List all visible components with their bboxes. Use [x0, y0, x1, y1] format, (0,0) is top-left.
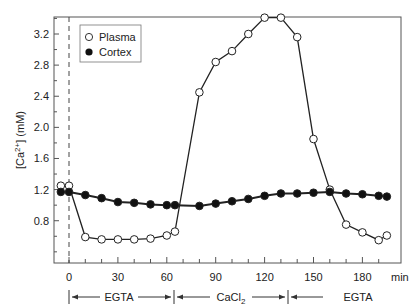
y-tick-label: 2.4: [34, 90, 49, 102]
x-axis: 0306090120150180: [66, 257, 379, 283]
x-tick-label: 0: [66, 271, 72, 283]
cortex-data-point: [310, 189, 318, 197]
x-tick-label: 90: [210, 271, 222, 283]
cortex-data-point: [326, 188, 334, 196]
y-tick-label: 2.8: [34, 59, 49, 71]
x-tick-label: 30: [112, 271, 124, 283]
cortex-data-point: [65, 188, 73, 196]
plasma-data-point: [228, 47, 236, 55]
legend: Plasma Cortex: [80, 25, 141, 62]
plasma-data-point: [130, 236, 138, 244]
y-axis: 0.81.21.62.02.42.83.2: [34, 18, 59, 251]
cortex-data-point: [171, 201, 179, 209]
y-axis-label: [Ca2+] (mM): [13, 111, 26, 169]
cortex-data-point: [57, 188, 65, 196]
plasma-data-point: [375, 236, 383, 244]
y-tick-label: 0.8: [34, 215, 49, 227]
plasma-data-point: [245, 30, 253, 38]
y-tick-label: 1.2: [34, 184, 49, 196]
plasma-data-point: [310, 135, 318, 143]
cortex-data-point: [342, 190, 350, 198]
egta-label-2: EGTA: [343, 291, 373, 303]
cortex-data-point: [82, 191, 90, 199]
calcium-chart: 0.81.21.62.02.42.83.2 0306090120150180 […: [0, 0, 412, 305]
plasma-data-point: [82, 233, 90, 241]
plasma-data-point: [147, 235, 155, 243]
cortex-data-point: [359, 190, 367, 198]
plasma-data-point: [383, 232, 391, 240]
cortex-data-point: [375, 192, 383, 200]
plasma-data-point: [196, 89, 204, 97]
x-axis-unit: min: [391, 271, 409, 283]
cortex-data-point: [245, 195, 253, 203]
cortex-data-point: [228, 197, 236, 205]
cortex-data-point: [277, 190, 285, 198]
legend-plasma-label: Plasma: [99, 31, 137, 43]
cortex-data-point: [196, 202, 204, 210]
plasma-data-point: [293, 33, 301, 41]
cortex-data-point: [163, 201, 171, 209]
plasma-data-point: [98, 236, 106, 244]
plasma-data-point: [261, 14, 269, 22]
cortex-series: [57, 188, 391, 210]
y-tick-label: 1.6: [34, 152, 49, 164]
plasma-data-point: [171, 228, 179, 236]
cortex-data-point: [261, 192, 269, 200]
y-tick-label: 3.2: [34, 28, 49, 40]
egta-label-1: EGTA: [104, 291, 134, 303]
plasma-data-point: [342, 221, 350, 229]
plasma-legend-marker: [85, 33, 92, 40]
cortex-data-point: [114, 198, 122, 206]
legend-cortex-label: Cortex: [99, 46, 132, 58]
x-tick-label: 180: [353, 271, 371, 283]
plasma-data-point: [359, 229, 367, 237]
x-tick-label: 60: [161, 271, 173, 283]
cacl2-label: CaCl2: [217, 291, 246, 305]
treatment-annotations: EGTA CaCl2 EGTA: [69, 290, 373, 305]
cortex-data-point: [130, 199, 138, 207]
cortex-data-point: [212, 200, 220, 208]
plasma-data-point: [212, 58, 220, 66]
cortex-data-point: [293, 190, 301, 198]
cortex-data-point: [98, 194, 106, 202]
plasma-data-point: [114, 236, 122, 244]
cortex-legend-marker: [85, 48, 92, 55]
cortex-data-point: [383, 193, 391, 201]
x-tick-label: 150: [304, 271, 322, 283]
x-tick-label: 120: [255, 271, 273, 283]
y-tick-label: 2.0: [34, 121, 49, 133]
plasma-data-point: [277, 14, 285, 22]
cortex-data-point: [147, 201, 155, 209]
plasma-data-point: [163, 232, 171, 240]
